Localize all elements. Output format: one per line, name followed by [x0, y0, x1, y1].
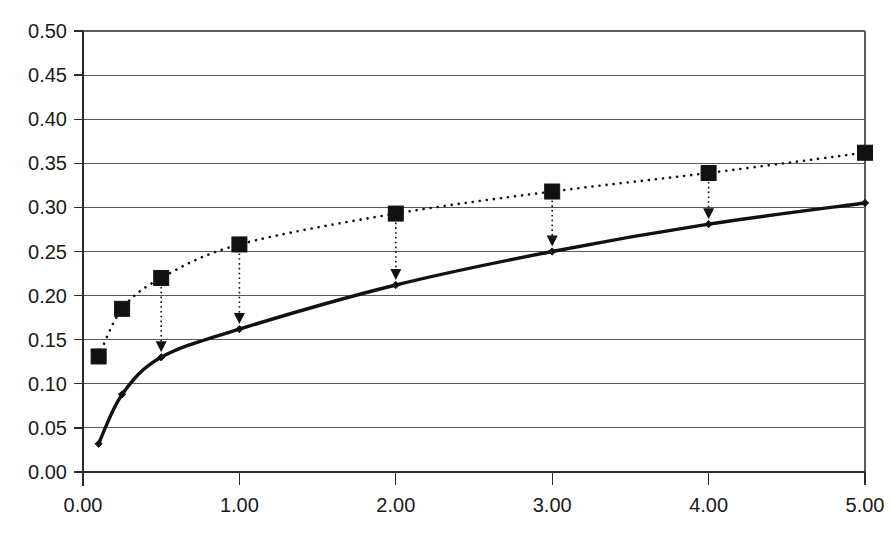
y-axis-tick-label: 0.20: [28, 285, 67, 307]
data-point-marker-diamond: [861, 199, 868, 206]
drop-arrow-head: [234, 313, 245, 324]
data-point-marker-square: [232, 237, 247, 252]
drop-arrow-head: [156, 341, 167, 352]
x-axis-tick-labels: 0.001.002.003.004.005.00: [64, 494, 885, 516]
x-axis-tick-label: 5.00: [846, 494, 885, 516]
y-axis-tick-label: 0.00: [28, 461, 67, 483]
data-point-marker-square: [858, 145, 873, 160]
x-axis-tick-label: 2.00: [376, 494, 415, 516]
drop-arrow-head: [390, 269, 401, 280]
drop-arrow-head: [547, 236, 558, 247]
y-axis-tick-labels: 0.000.050.100.150.200.250.300.350.400.45…: [28, 20, 67, 483]
y-axis-tick-label: 0.35: [28, 152, 67, 174]
y-axis-tick-label: 0.40: [28, 108, 67, 130]
y-axis-tick-label: 0.10: [28, 373, 67, 395]
x-axis: [83, 472, 865, 485]
x-axis-tick-label: 0.00: [64, 494, 103, 516]
series-lines: [99, 153, 865, 444]
data-point-marker-square: [91, 349, 106, 364]
y-axis-tick-label: 0.45: [28, 64, 67, 86]
data-point-marker-diamond: [705, 221, 712, 228]
x-axis-tick-label: 4.00: [689, 494, 728, 516]
data-point-marker-square: [154, 270, 169, 285]
y-axis-tick-label: 0.15: [28, 329, 67, 351]
data-point-marker-diamond: [392, 281, 399, 288]
y-axis-tick-label: 0.05: [28, 417, 67, 439]
series-markers: [91, 145, 872, 447]
data-point-marker-square: [115, 301, 130, 316]
series-line-lower-series: [99, 203, 865, 444]
y-axis-tick-label: 0.50: [28, 20, 67, 42]
data-point-marker-square: [701, 166, 716, 181]
y-axis: [74, 31, 83, 486]
x-axis-tick-label: 3.00: [533, 494, 572, 516]
chart-container: 0.000.050.100.150.200.250.300.350.400.45…: [0, 0, 892, 536]
chart-canvas: 0.000.050.100.150.200.250.300.350.400.45…: [0, 0, 892, 536]
data-point-marker-square: [545, 184, 560, 199]
y-axis-tick-label: 0.25: [28, 241, 67, 263]
series-line-upper-series: [99, 153, 865, 357]
x-axis-tick-label: 1.00: [220, 494, 259, 516]
drop-arrow-head: [703, 208, 714, 219]
gridlines: [83, 31, 865, 472]
y-axis-tick-label: 0.30: [28, 196, 67, 218]
data-point-marker-square: [388, 206, 403, 221]
data-point-marker-diamond: [549, 248, 556, 255]
